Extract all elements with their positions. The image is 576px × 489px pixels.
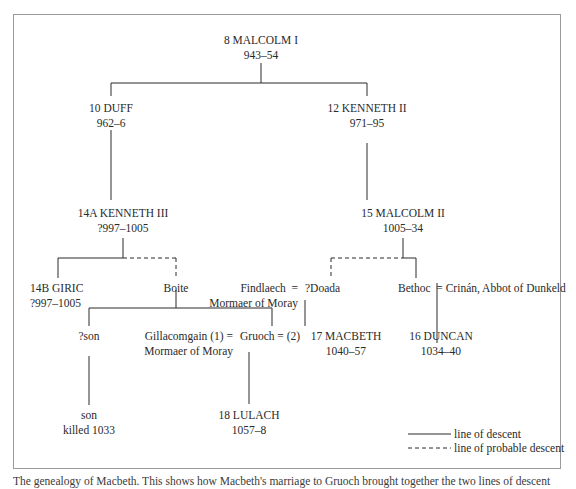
node-name: 16 DUNCAN [409,329,473,344]
node-reign: 1034–40 [409,344,473,359]
node-crinan: Crinán, Abbot of Dunkeld [446,282,566,294]
node-name: Bethoc [398,282,431,294]
node-boite: Boite [164,281,189,296]
legend-solid-label: line of descent [454,427,521,442]
node-son1: ?son [78,329,99,344]
node-name: Boite [164,281,189,296]
node-malcolm2: 15 MALCOLM II 1005–34 [361,206,445,236]
node-name: ?Doada [305,281,340,296]
node-name: 14B GIRIC [30,281,83,296]
node-son2: son killed 1033 [63,408,115,438]
marriage-sign: = [436,282,443,294]
node-gruoch: Gruoch = (2) [240,329,300,344]
node-name: Gruoch = (2) [240,329,300,344]
node-doada: ?Doada [305,281,340,296]
node-reign: 1040–57 [311,344,382,359]
node-name: 14A KENNETH III [78,206,169,221]
node-name: ?son [78,329,99,344]
node-name: 8 MALCOLM I [224,33,298,48]
node-reign: 943–54 [224,48,298,63]
node-name: Findlaech [240,282,285,294]
legend-dashed-label: line of probable descent [454,441,564,456]
node-reign: 962–6 [89,116,133,131]
node-reign: 1005–34 [361,221,445,236]
node-name: 18 LULACH [218,408,279,423]
node-note: killed 1033 [63,423,115,438]
node-bethoc: Bethoc = Crinán, Abbot of Dunkeld [398,281,566,296]
node-duff: 10 DUFF 962–6 [89,101,133,131]
node-name: 17 MACBETH [311,329,382,344]
node-giric: 14B GIRIC ?997–1005 [30,281,83,311]
node-name: Gillacomgain (1) = [144,329,233,344]
node-reign: 971–95 [327,116,406,131]
node-title: Mormaer of Moray [144,344,233,359]
node-kenneth3: 14A KENNETH III ?997–1005 [78,206,169,236]
node-kenneth2: 12 KENNETH II 971–95 [327,101,406,131]
figure-caption: The genealogy of Macbeth. This shows how… [13,474,550,489]
node-lulach: 18 LULACH 1057–8 [218,408,279,438]
node-gillacomgain: Gillacomgain (1) = Mormaer of Moray [144,329,233,359]
node-reign: ?997–1005 [78,221,169,236]
node-findlaech: Findlaech = Mormaer of Moray [209,281,298,311]
node-reign: 1057–8 [218,423,279,438]
node-name: 10 DUFF [89,101,133,116]
node-reign: ?997–1005 [30,296,83,311]
marriage-sign: = [292,282,299,294]
node-name: son [63,408,115,423]
node-title: Mormaer of Moray [209,296,298,311]
node-name: 15 MALCOLM II [361,206,445,221]
node-malcolm1: 8 MALCOLM I 943–54 [224,33,298,63]
node-name: 12 KENNETH II [327,101,406,116]
node-duncan: 16 DUNCAN 1034–40 [409,329,473,359]
node-macbeth: 17 MACBETH 1040–57 [311,329,382,359]
